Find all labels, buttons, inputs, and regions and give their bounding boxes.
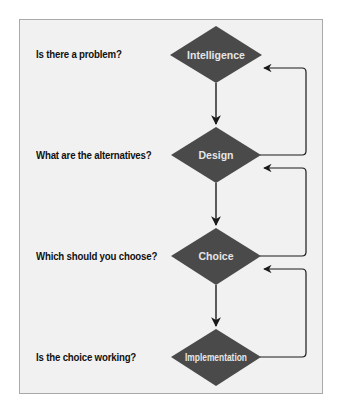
node-implementation: Implementation [171,329,261,386]
node-choice: Choice [171,228,261,285]
feedback-implementation-to-choice [260,269,306,357]
svg-text:Implementation: Implementation [185,351,247,363]
svg-text:Design: Design [198,149,233,161]
svg-text:Choice: Choice [198,250,233,262]
node-intelligence: Intelligence [170,26,262,83]
feedback-design-to-intelligence [260,68,306,155]
node-design: Design [171,127,261,183]
feedback-choice-to-design [260,168,306,256]
svg-text:Intelligence: Intelligence [187,49,245,61]
flowchart: Intelligence Design Choice Implementatio… [0,0,341,418]
